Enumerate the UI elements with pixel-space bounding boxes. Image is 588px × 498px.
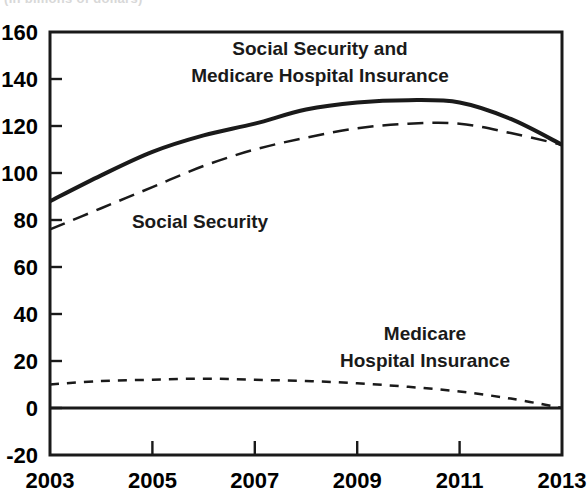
y-axis-tick-label: 100 xyxy=(1,161,38,186)
annotation-label-line1: Social Security xyxy=(132,211,269,232)
line-chart-svg: 160140120100806040200-202003200520072009… xyxy=(0,0,588,498)
y-axis-tick-label: -20 xyxy=(6,443,38,468)
x-axis-tick-label: 2013 xyxy=(538,468,587,493)
y-axis-tick-label: 60 xyxy=(14,255,38,280)
x-axis-tick-label: 2007 xyxy=(230,468,279,493)
annotation-medicare-hi: MedicareHospital Insurance xyxy=(340,323,510,371)
clipped-header-text: (In billions of dollars) xyxy=(4,0,143,6)
y-axis-tick-label: 120 xyxy=(1,114,38,139)
y-axis-tick-label: 160 xyxy=(1,20,38,45)
y-axis-tick-label: 20 xyxy=(14,349,38,374)
x-axis-tick-label: 2011 xyxy=(436,468,484,493)
x-axis-tick-label: 2005 xyxy=(128,468,177,493)
y-axis-tick-label: 80 xyxy=(14,208,38,233)
series-line-3 xyxy=(50,379,562,408)
x-axis-tick-label: 2009 xyxy=(333,468,382,493)
annotation-label-line1: Medicare xyxy=(384,323,466,344)
annotation-label-line2: Medicare Hospital Insurance xyxy=(191,65,449,86)
series-line-2 xyxy=(50,123,562,230)
series-line-1 xyxy=(50,100,562,201)
chart-figure: (In billions of dollars) 160140120100806… xyxy=(0,0,588,498)
y-axis-tick-label: 40 xyxy=(14,302,38,327)
x-axis-tick-label: 2003 xyxy=(26,468,75,493)
plot-frame xyxy=(50,32,562,455)
annotation-combined: Social Security andMedicare Hospital Ins… xyxy=(191,38,449,86)
y-axis-tick-label: 140 xyxy=(1,67,38,92)
annotation-label-line2: Hospital Insurance xyxy=(340,350,510,371)
y-axis-tick-label: 0 xyxy=(26,396,38,421)
annotation-label-line1: Social Security and xyxy=(232,38,407,59)
annotation-social-security: Social Security xyxy=(132,211,269,232)
